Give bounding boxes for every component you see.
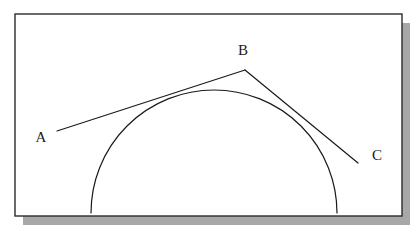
label-a: A — [36, 129, 47, 145]
label-c: C — [372, 147, 382, 163]
geometry-figure: A B C — [0, 0, 420, 234]
diagram-canvas: A B C — [0, 0, 420, 234]
label-b: B — [238, 42, 248, 58]
diagram-frame — [15, 14, 402, 216]
